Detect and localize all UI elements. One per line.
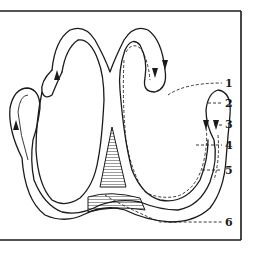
callout-label-1: 1 <box>225 77 233 90</box>
callout-label-5: 5 <box>225 164 233 177</box>
arrow-icon <box>13 120 19 130</box>
callout-label-4: 4 <box>225 139 233 152</box>
callout-label-2: 2 <box>225 97 233 110</box>
callout-label-6: 6 <box>225 216 233 229</box>
arrow-icon <box>54 70 60 80</box>
inner-arch <box>36 28 219 203</box>
arrow-icon <box>152 68 158 78</box>
central-septum <box>100 127 126 187</box>
anatomical-diagram: 1 2 3 4 5 6 <box>0 0 255 253</box>
callout-label-3: 3 <box>225 118 233 131</box>
arrow-icon <box>162 60 168 70</box>
